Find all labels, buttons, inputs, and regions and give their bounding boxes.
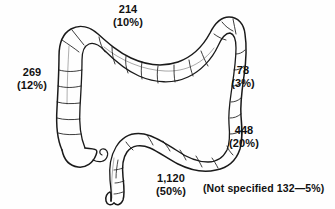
- haustra-ascending: [57, 70, 82, 135]
- label-splenic-count: 78: [218, 64, 268, 77]
- label-rectosigmoid: 1,120 (50%): [145, 172, 197, 198]
- rectum-tip: [106, 192, 114, 205]
- label-rectosigmoid-count: 1,120: [145, 172, 197, 185]
- label-descending-percent: (20%): [215, 137, 273, 150]
- label-ascending-percent: (12%): [4, 79, 60, 92]
- note-not-specified: (Not specified 132—5%): [203, 182, 324, 194]
- label-descending-colon: 448 (20%): [215, 124, 273, 150]
- label-splenic-percent: (3%): [218, 77, 268, 90]
- cecum-end: [62, 148, 97, 167]
- label-transverse-count: 214: [98, 3, 158, 16]
- label-ascending-count: 269: [4, 66, 60, 79]
- label-descending-count: 448: [215, 124, 273, 137]
- label-splenic-flexure: 78 (3%): [218, 64, 268, 90]
- label-rectosigmoid-percent: (50%): [145, 185, 197, 198]
- label-transverse-colon: 214 (10%): [98, 3, 158, 29]
- rectum-shading: [112, 158, 114, 198]
- ascending-shading: [67, 46, 69, 104]
- label-ascending-colon: 269 (12%): [4, 66, 60, 92]
- label-transverse-percent: (10%): [98, 16, 158, 29]
- haustra-descending: [230, 50, 245, 134]
